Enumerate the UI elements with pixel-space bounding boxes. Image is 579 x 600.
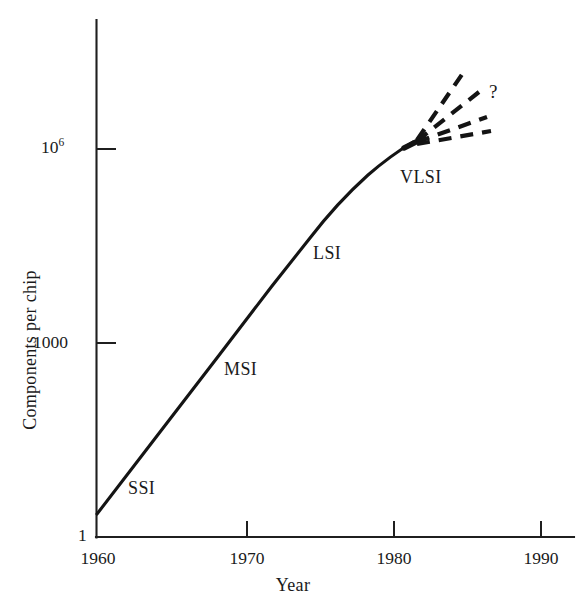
annotation-msi: MSI	[224, 360, 257, 378]
x-axis-title: Year	[276, 576, 310, 594]
y-tick-label-1000000: 106	[41, 139, 64, 157]
annotation-question-mark: ?	[489, 82, 497, 101]
x-tick-label-1990: 1990	[506, 550, 576, 568]
exponent-six: 6	[59, 136, 65, 148]
chart-figure: 106 1000 1 1960 1970 1980 1990 Year Comp…	[0, 0, 579, 600]
x-tick-label-1980: 1980	[359, 550, 429, 568]
y-tick-label-1: 1	[78, 527, 87, 545]
x-tick-label-1960: 1960	[63, 550, 133, 568]
annotation-lsi: LSI	[313, 244, 341, 262]
annotation-vlsi: VLSI	[400, 168, 442, 186]
projection-branch-3	[417, 117, 487, 142]
y-tick-label-1000: 1000	[33, 334, 68, 352]
components-per-chip-curve	[97, 142, 413, 514]
projection-branch-1	[417, 73, 463, 140]
annotation-ssi: SSI	[128, 479, 155, 497]
x-tick-label-1970: 1970	[212, 550, 282, 568]
